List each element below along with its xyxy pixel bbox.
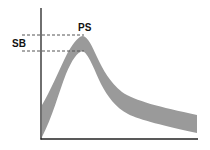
ps-label: PS <box>78 22 92 33</box>
shaded-band <box>42 36 197 137</box>
sb-label: SB <box>12 38 26 49</box>
diagram-canvas: PS SB <box>0 0 210 150</box>
